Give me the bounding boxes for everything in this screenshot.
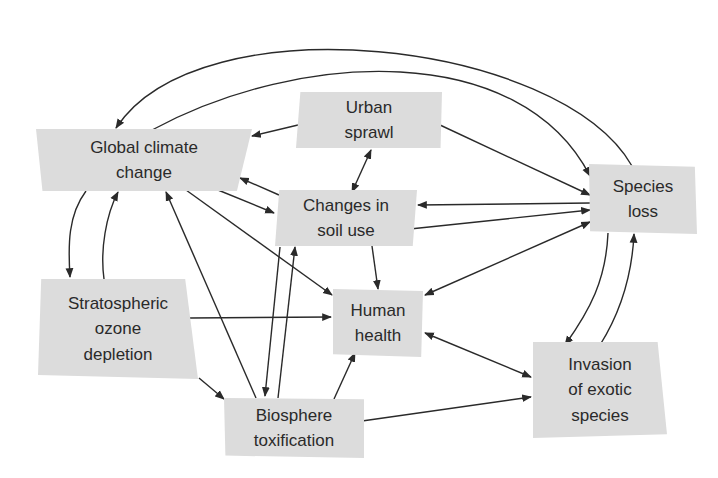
edge-species-loss-to-soil-use (418, 203, 590, 205)
node-invasion-of-exotic-species: Invasion of exotic species (533, 342, 667, 438)
edge-biosphere-to-invasion (362, 397, 531, 421)
node-changes-in-soil-use: Changes in soil use (275, 190, 417, 246)
edge-urban-sprawl-changes-in-soil-use (352, 150, 371, 192)
node-label: Urban sprawl (344, 95, 393, 146)
edge-biosphere-to-soil-use (278, 247, 295, 398)
node-label: Biosphere toxification (254, 403, 334, 454)
node-label: Species loss (613, 174, 673, 225)
edge-biosphere-to-human-health (334, 353, 355, 399)
node-label: Human health (351, 298, 406, 349)
edge-global-climate-change-to-soil-use (218, 190, 274, 213)
edge-soil-use-to-human-health (372, 246, 378, 289)
node-human-health: Human health (333, 289, 423, 357)
edge-global-climate-change-to-ozone (69, 191, 86, 277)
edge-species-loss-to-invasion (565, 233, 608, 345)
edge-ozone-to-biosphere (199, 378, 224, 399)
edge-invasion-to-species-loss (600, 234, 634, 345)
edge-soil-use-to-biosphere (265, 247, 280, 396)
node-label: Stratospheric ozone depletion (68, 291, 168, 368)
edge-urban-sprawl-to-species-loss (440, 125, 590, 195)
edge-ozone-to-human-health (190, 317, 331, 318)
node-species-loss: Species loss (589, 164, 697, 234)
node-urban-sprawl: Urban sprawl (296, 92, 442, 148)
node-global-climate-change: Global climate change (36, 129, 252, 191)
edge-human-health-invasion (425, 333, 531, 377)
edge-ozone-to-global-climate-change (103, 192, 118, 279)
node-stratospheric-ozone-depletion: Stratospheric ozone depletion (38, 279, 198, 379)
node-label: Invasion of exotic species (568, 352, 631, 429)
node-label: Global climate change (90, 135, 198, 186)
edge-soil-use-to-species-loss (410, 210, 590, 229)
node-biosphere-toxification: Biosphere toxification (224, 398, 364, 458)
edge-urban-sprawl-to-global-climate-change (252, 125, 298, 136)
node-label: Changes in soil use (303, 193, 389, 244)
edge-species-loss-human-health (425, 222, 590, 295)
